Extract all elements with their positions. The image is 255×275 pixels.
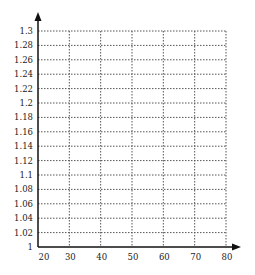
x-tick-label: 50 [128, 252, 139, 262]
y-tick-label: 1.1 [19, 170, 33, 180]
grid [38, 31, 226, 247]
y-tick-label: 1.2 [19, 98, 33, 108]
y-tick-label: 1 [28, 242, 33, 252]
y-tick-label: 1.12 [14, 156, 33, 166]
x-tick-label: 70 [190, 252, 201, 262]
y-tick-label: 1.04 [14, 213, 33, 223]
y-tick-label: 1.28 [14, 40, 33, 50]
x-tick-labels: 20304050607080 [39, 252, 233, 262]
x-tick-label: 40 [96, 252, 107, 262]
axes [35, 12, 242, 251]
y-tick-label: 1.14 [14, 141, 33, 151]
y-axis-arrow-icon [35, 12, 42, 21]
x-tick-label: 60 [159, 252, 170, 262]
y-tick-labels: 11.021.041.061.081.11.121.141.161.181.21… [14, 26, 33, 252]
y-tick-label: 1.3 [19, 26, 33, 36]
y-tick-label: 1.22 [14, 84, 33, 94]
y-tick-label: 1.08 [14, 184, 33, 194]
y-tick-label: 1.16 [14, 127, 33, 137]
x-tick-label: 30 [65, 252, 76, 262]
y-tick-label: 1.02 [14, 228, 33, 238]
y-tick-label: 1.06 [14, 199, 33, 209]
chart: 20304050607080 11.021.041.061.081.11.121… [0, 0, 255, 275]
x-tick-label: 80 [222, 252, 233, 262]
y-tick-label: 1.26 [14, 55, 33, 65]
y-tick-label: 1.18 [14, 112, 33, 122]
y-tick-label: 1.24 [14, 69, 33, 79]
x-axis-arrow-icon [232, 244, 241, 251]
x-tick-label: 20 [39, 252, 50, 262]
